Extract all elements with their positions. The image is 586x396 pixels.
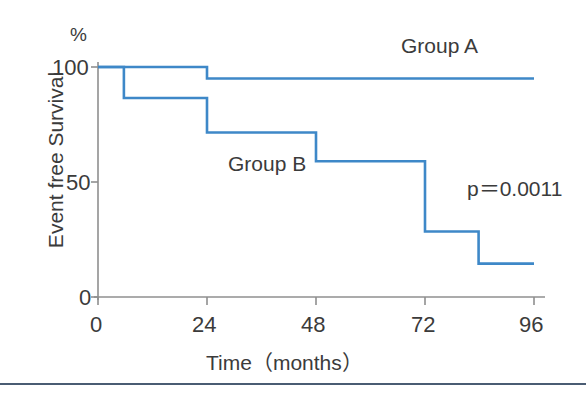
series-label-group-b: Group B bbox=[228, 152, 306, 176]
y-axis-title: Event free Survival bbox=[44, 55, 68, 265]
p-value-annotation: p＝0.0011 bbox=[467, 172, 562, 202]
bottom-divider-rule bbox=[0, 383, 586, 385]
x-tick-label-24: 24 bbox=[192, 312, 216, 338]
series-line-group-b bbox=[98, 67, 534, 264]
x-tick-label-96: 96 bbox=[519, 312, 543, 338]
x-tick-label-72: 72 bbox=[411, 312, 435, 338]
y-axis-unit-label: % bbox=[70, 24, 87, 46]
series-line-group-a bbox=[98, 67, 534, 79]
x-tick-label-0: 0 bbox=[90, 312, 102, 338]
x-axis-title: Time（months） bbox=[206, 346, 363, 376]
y-tick-label-50: 50 bbox=[66, 170, 90, 196]
x-tick-label-48: 48 bbox=[301, 312, 325, 338]
kaplan-meier-figure: % 100 50 0 0 24 48 72 96 Time（months） Ev… bbox=[0, 0, 586, 396]
y-tick-label-0: 0 bbox=[79, 285, 91, 311]
series-label-group-a: Group A bbox=[401, 34, 478, 58]
